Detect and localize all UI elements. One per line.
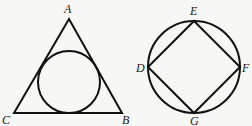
geometry-figure: A B C E D F G	[0, 0, 252, 126]
label-c: C	[2, 113, 11, 126]
circle-with-inscribed-square: E D F G	[135, 4, 250, 126]
circumscribed-circle	[148, 21, 240, 113]
triangle-with-incircle: A B C	[2, 2, 130, 126]
label-a: A	[63, 2, 72, 16]
label-f: F	[241, 61, 250, 75]
figure-canvas: A B C E D F G	[0, 0, 252, 126]
triangle-abc	[14, 19, 122, 113]
inscribed-circle	[38, 51, 100, 113]
label-b: B	[122, 113, 130, 126]
label-g: G	[190, 114, 199, 126]
label-d: D	[135, 61, 145, 75]
label-e: E	[189, 4, 198, 18]
